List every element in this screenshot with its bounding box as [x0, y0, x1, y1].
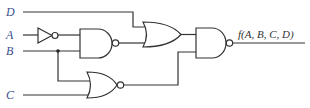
or-gate: [143, 22, 181, 47]
output-label: f(A, B, C, D): [238, 28, 294, 41]
input-label-a: A: [5, 28, 14, 42]
not-gate: [38, 28, 58, 43]
input-label-d: D: [5, 5, 15, 19]
nand-gate-2: [196, 28, 233, 58]
input-label-c: C: [6, 88, 15, 102]
wire-d: [23, 12, 147, 27]
logic-circuit-diagram: D A B C f(A, B, C, D): [0, 0, 310, 108]
wire-nor-out: [124, 52, 196, 85]
nand-gate-1: [80, 29, 119, 58]
input-label-b: B: [6, 44, 14, 58]
nor-gate: [87, 72, 124, 98]
